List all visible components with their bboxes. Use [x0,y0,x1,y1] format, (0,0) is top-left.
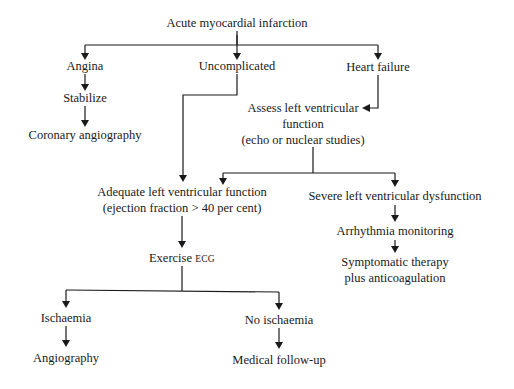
node-medical-follow-up: Medical follow-up [232,352,325,368]
node-angiography: Angiography [33,350,99,366]
node-ischaemia: Ischaemia [41,310,92,326]
node-acute-myocardial-infarction: Acute myocardial infarction [167,15,308,31]
flowchart-canvas: Acute myocardial infarction Angina Uncom… [0,0,514,389]
node-arrhythmia-monitoring: Arrhythmia monitoring [337,223,454,239]
node-heart-failure: Heart failure [346,59,410,75]
node-symptomatic-line2: plus anticoagulation [344,270,445,286]
node-assess-line1: Assess left ventricular [247,100,358,116]
node-no-ischaemia: No ischaemia [245,312,313,328]
node-adequate-line1: Adequate left ventricular function [97,184,267,200]
node-uncomplicated: Uncomplicated [199,58,275,74]
node-coronary-angiography: Coronary angiography [29,127,142,143]
node-assess-line2: function [282,116,324,132]
node-severe-lv-dysfunction: Severe left ventricular dysfunction [308,188,481,204]
ecg-label: ECG [195,254,215,264]
node-stabilize: Stabilize [63,90,107,106]
exercise-label: Exercise [149,251,195,265]
node-symptomatic-line1: Symptomatic therapy [341,254,448,270]
node-exercise-ecg: Exercise ECG [149,250,215,267]
node-angina: Angina [67,58,104,74]
node-adequate-line2: (ejection fraction > 40 per cent) [103,200,262,216]
node-assess-line3: (echo or nuclear studies) [241,132,364,148]
